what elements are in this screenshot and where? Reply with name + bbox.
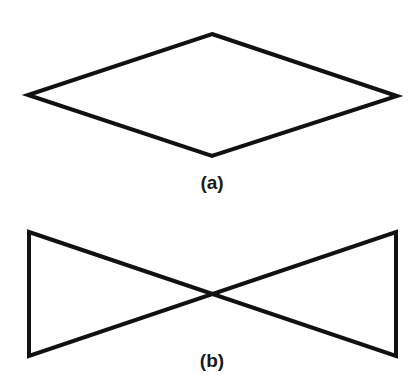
rhombus-shape — [28, 34, 397, 156]
bowtie-shape — [29, 232, 396, 356]
figure-label-b: (b) — [182, 350, 242, 372]
figure-label-a: (a) — [182, 172, 242, 194]
diagram-canvas — [0, 0, 413, 388]
